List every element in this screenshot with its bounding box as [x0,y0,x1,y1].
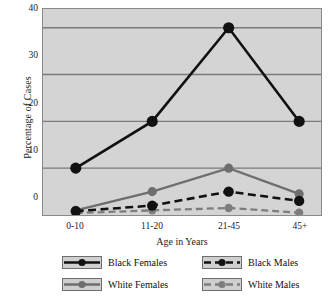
legend-label: Black Males [248,258,298,268]
data-point [224,204,232,212]
x-tick-label: 11-20 [141,221,163,231]
series-white-females [71,164,304,215]
data-point [147,116,158,127]
series-line-white-females [76,168,299,210]
legend-item-black-males[interactable]: Black Males [202,254,298,271]
data-point [295,208,303,215]
series-line-black-females [76,28,299,168]
y-tick-label: 40 [2,4,38,14]
data-point [294,196,304,206]
legend-item-white-males[interactable]: White Males [202,276,299,293]
x-axis-title: Age in Years [42,236,322,247]
y-axis-ticks: 40 30 20 10 0 [0,8,38,216]
x-tick-label: 0-10 [66,221,83,231]
plot-canvas [43,9,321,215]
data-point [223,22,234,33]
plot-area [42,8,322,216]
legend-label: White Males [248,280,299,290]
legend-item-black-females[interactable]: Black Females [62,254,167,271]
data-point [224,164,233,173]
data-point [148,187,157,196]
gridlines [43,28,321,168]
x-axis-ticks: 0-10 11-20 21-45 45+ [42,221,322,235]
legend-item-white-females[interactable]: White Females [62,276,168,293]
data-point [294,116,305,127]
y-tick-label: 0 [2,193,38,203]
data-point [147,200,157,210]
data-point [224,186,234,196]
chart-figure: Percentage of Cases 40 30 20 10 0 [0,0,336,298]
legend-swatch-black-males-icon [202,256,242,269]
series-black-females [70,22,305,174]
legend-label: Black Females [108,258,167,268]
legend-swatch-white-females-icon [62,278,102,291]
series-line-white-males [76,208,299,213]
chart-legend: Black Females White Females Black Males [62,254,324,296]
y-tick-label: 30 [2,51,38,61]
legend-swatch-black-females-icon [62,256,102,269]
x-tick-label: 45+ [293,221,308,231]
y-tick-label: 10 [2,146,38,156]
x-tick-label: 21-45 [218,221,240,231]
data-point [71,206,81,215]
data-point [70,163,81,174]
series-black-males [71,186,305,215]
legend-label: White Females [108,280,168,290]
y-tick-label: 20 [2,99,38,109]
legend-swatch-white-males-icon [202,278,242,291]
